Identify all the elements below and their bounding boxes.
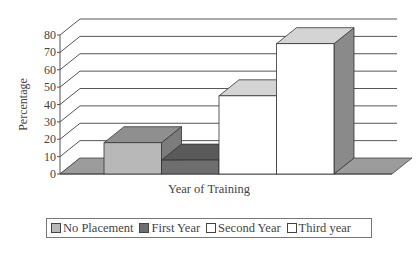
chart-plot-area: 01020304050607080Percentage <box>0 0 418 210</box>
x-axis-title: Year of Training <box>0 182 418 197</box>
legend-item-second-year: Second Year <box>206 221 281 236</box>
y-tick-label: 60 <box>44 63 56 77</box>
legend-swatch-icon <box>206 223 216 233</box>
legend-label: Second Year <box>218 221 281 236</box>
y-tick-label: 10 <box>44 150 56 164</box>
y-axis-title: Percentage <box>16 78 30 131</box>
y-tick-label: 40 <box>44 98 56 112</box>
legend-swatch-icon <box>139 223 149 233</box>
bar-first-year <box>162 160 220 174</box>
bar-second-year <box>219 96 277 174</box>
gridline-diagonal <box>60 106 80 122</box>
legend-item-no-placement: No Placement <box>51 221 133 236</box>
y-tick-label: 20 <box>44 132 56 146</box>
legend-label: Third year <box>299 221 351 236</box>
gridline-diagonal <box>60 54 80 70</box>
legend-swatch-icon <box>287 223 297 233</box>
y-tick-label: 80 <box>44 28 56 42</box>
bar-no-placement <box>104 143 162 174</box>
gridline-diagonal <box>60 123 80 139</box>
y-tick-label: 0 <box>50 167 56 181</box>
gridline-diagonal <box>60 19 80 35</box>
chart-legend: No Placement First Year Second Year Thir… <box>46 218 372 238</box>
legend-label: First Year <box>151 221 200 236</box>
legend-item-third-year: Third year <box>287 221 351 236</box>
legend-item-first-year: First Year <box>139 221 200 236</box>
legend-swatch-icon <box>51 223 61 233</box>
gridline-diagonal <box>60 71 80 87</box>
y-tick-label: 70 <box>44 45 56 59</box>
y-tick-label: 30 <box>44 115 56 129</box>
y-tick-label: 50 <box>44 80 56 94</box>
bar-third-year <box>277 44 335 174</box>
legend-label: No Placement <box>63 221 133 236</box>
gridline-diagonal <box>60 141 80 157</box>
gridline-diagonal <box>60 36 80 52</box>
gridline-diagonal <box>60 89 80 105</box>
bar-side-face <box>334 28 354 174</box>
